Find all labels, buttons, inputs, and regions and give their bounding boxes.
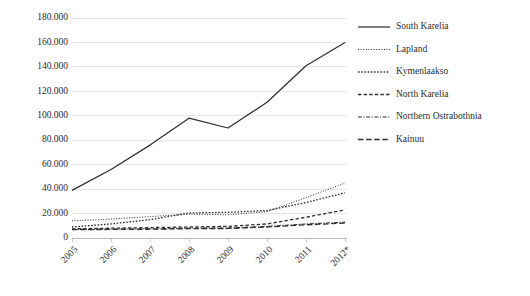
line-chart: 180.000160.000140.000120.000100.00080.00… <box>0 0 530 296</box>
legend-label: Lapland <box>396 44 427 54</box>
legend-label: Kainuu <box>396 134 424 144</box>
legend-label: Kymenlaakso <box>396 66 448 76</box>
y-axis-tick-label: 20.000 <box>42 208 68 218</box>
series-line-north-karelia <box>72 210 345 229</box>
y-axis-tick-label: 140.000 <box>37 61 68 71</box>
y-axis-tick-label: 60.000 <box>42 159 68 169</box>
x-axis-tick-label: 2011 <box>293 244 313 264</box>
gridlines <box>72 18 347 238</box>
x-axis-tickmarks <box>72 238 345 242</box>
x-axis-tick-labels: 20052006200720082009201020112012* <box>59 244 353 268</box>
x-axis-tick-label: 2008 <box>176 244 197 265</box>
y-axis-tick-label: 40.000 <box>42 183 68 193</box>
y-axis-tick-label: 0 <box>63 232 68 242</box>
data-series-group <box>72 42 345 229</box>
x-axis-tick-label: 2007 <box>137 244 158 265</box>
x-axis-tick-label: 2012* <box>329 244 353 268</box>
y-axis-tick-label: 180.000 <box>37 12 68 22</box>
chart-legend: South KareliaLaplandKymenlaaksoNorth Kar… <box>358 21 483 144</box>
y-axis-tick-label: 120.000 <box>37 86 68 96</box>
legend-label: Northern Ostrabothnia <box>396 111 483 121</box>
series-line-south-karelia <box>72 42 345 190</box>
legend-label: North Karelia <box>396 89 449 99</box>
y-axis-tick-label: 160.000 <box>37 37 68 47</box>
x-axis-tick-label: 2005 <box>59 244 80 265</box>
y-axis-tick-label: 100.000 <box>37 110 68 120</box>
y-axis-tick-labels: 180.000160.000140.000120.000100.00080.00… <box>37 12 68 242</box>
legend-label: South Karelia <box>396 21 449 31</box>
x-axis-tick-label: 2010 <box>254 244 275 265</box>
chart-canvas: 180.000160.000140.000120.000100.00080.00… <box>0 0 530 296</box>
y-axis-tick-label: 80.000 <box>42 134 68 144</box>
x-axis-tick-label: 2009 <box>215 244 236 265</box>
x-axis-tick-label: 2006 <box>98 244 119 265</box>
